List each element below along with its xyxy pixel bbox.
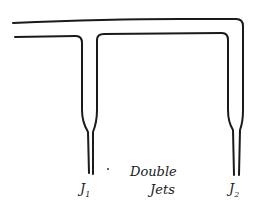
left-tube-wall xyxy=(15,36,89,173)
jet1-label: J1 xyxy=(80,182,90,199)
diagram-title-line1: Double xyxy=(130,165,177,178)
tube-drawing xyxy=(0,0,261,214)
inner-tube-wall xyxy=(93,33,234,175)
stray-dot xyxy=(107,168,109,170)
diagram-title-line2: Jets xyxy=(150,183,175,196)
double-jets-diagram: Double Jets J1 J2 xyxy=(0,0,261,214)
outer-tube-wall xyxy=(13,19,243,175)
jet2-label: J2 xyxy=(229,182,239,199)
